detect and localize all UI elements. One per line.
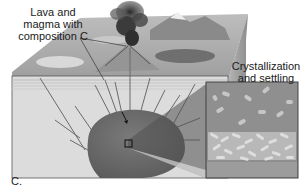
crystal-inset [206, 82, 298, 178]
lava-label-line-2: magma with [14, 18, 92, 30]
lava-magma-label: Lava and magma with composition C [14, 6, 92, 42]
figure-caption: C. [11, 175, 22, 187]
lava-label-line-1: Lava and [14, 6, 92, 18]
cryst-label-line-1: Crystallization [228, 60, 304, 72]
crystallization-label: Crystallization and settling [228, 60, 304, 84]
diagram-canvas: Lava and magma with composition C Crysta… [0, 0, 304, 192]
lava-label-line-3: composition C [14, 30, 92, 42]
cryst-label-line-2: and settling [228, 72, 304, 84]
